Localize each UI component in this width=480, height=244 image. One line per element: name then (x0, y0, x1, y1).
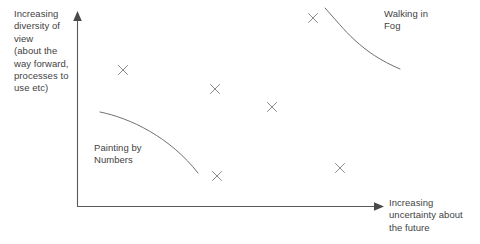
cluster-label-painting-by-numbers: Painting by Numbers (94, 142, 174, 167)
diagram-canvas: Increasing diversity of view (about the … (0, 0, 480, 244)
x-axis-label: Increasing uncertainty about the future (389, 197, 480, 234)
x-axis-arrowhead (374, 202, 384, 211)
x-axis (77, 202, 384, 211)
scatter-point (309, 14, 318, 23)
scatter-point (268, 103, 277, 112)
cluster-label-walking-in-fog: Walking in Fog (384, 8, 460, 33)
scatter-point (211, 85, 220, 94)
y-axis (73, 11, 82, 207)
scatter-point (213, 172, 222, 181)
y-axis-arrowhead (73, 11, 82, 21)
scatter-point (119, 66, 128, 75)
scatter-point (336, 164, 345, 173)
y-axis-label: Increasing diversity of view (about the … (14, 8, 74, 95)
